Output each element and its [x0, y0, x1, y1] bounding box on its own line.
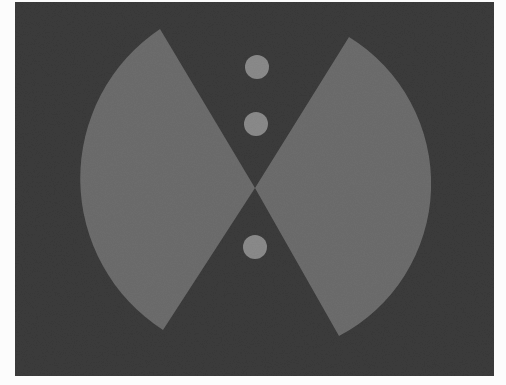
dot-bottom: [243, 235, 267, 259]
illusion-figure: [0, 0, 506, 385]
figure-stage: [0, 0, 506, 385]
dot-top: [245, 55, 269, 79]
dot-middle: [244, 112, 268, 136]
